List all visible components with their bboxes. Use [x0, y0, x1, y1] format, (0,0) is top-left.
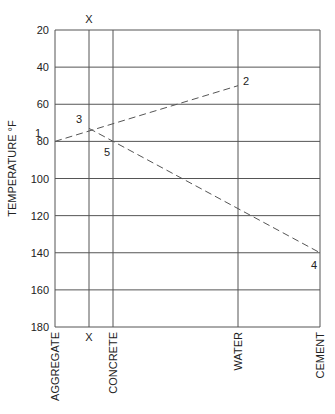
- point-label-1: 1: [35, 127, 41, 139]
- point-label-5: 5: [104, 146, 110, 158]
- point-label-3: 3: [76, 113, 82, 125]
- x-label-cement: CEMENT: [314, 332, 326, 379]
- y-tick-label: 60: [37, 98, 49, 110]
- y-tick-label: 120: [31, 210, 49, 222]
- point-label-4: 4: [311, 259, 317, 271]
- x-label-x: X: [85, 331, 93, 343]
- y-tick-label: 140: [31, 247, 49, 259]
- temperature-chart: 20406080100120140160180AGGREGATEXCONCRET…: [0, 0, 335, 414]
- y-tick-label: 100: [31, 173, 49, 185]
- y-tick-label: 40: [37, 61, 49, 73]
- y-tick-label: 20: [37, 24, 49, 36]
- series-1-2: [55, 86, 238, 142]
- x-label-water: WATER: [232, 332, 244, 371]
- point-label-2: 2: [243, 75, 249, 87]
- y-tick-label: 180: [31, 321, 49, 333]
- x-label-aggregate: AGGREGATE: [49, 332, 61, 401]
- series-3-4: [89, 128, 320, 252]
- y-axis-title: TEMPERATURE °F: [6, 120, 18, 217]
- x-top-label: X: [85, 13, 93, 25]
- y-tick-label: 160: [31, 284, 49, 296]
- x-label-concrete: CONCRETE: [107, 332, 119, 394]
